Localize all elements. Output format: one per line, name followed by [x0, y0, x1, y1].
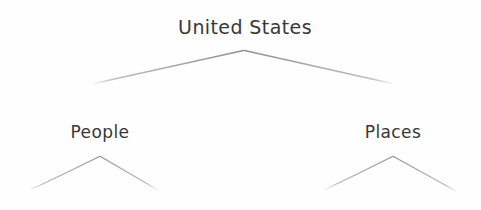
branch-places	[325, 157, 456, 192]
branch-root-left-line	[94, 51, 244, 84]
branch-people-left-line	[31, 157, 100, 190]
node-places: Places	[365, 124, 421, 141]
branch-people	[31, 157, 157, 190]
diagram-canvas: United States People Places	[0, 0, 481, 210]
branch-places-left-line	[325, 157, 393, 190]
branch-root-right-line	[245, 51, 393, 84]
node-people: People	[71, 124, 130, 141]
node-united-states: United States	[178, 18, 312, 37]
branch-root	[94, 51, 392, 84]
branch-people-right-line	[101, 157, 158, 190]
branch-places-right-line	[394, 157, 457, 192]
